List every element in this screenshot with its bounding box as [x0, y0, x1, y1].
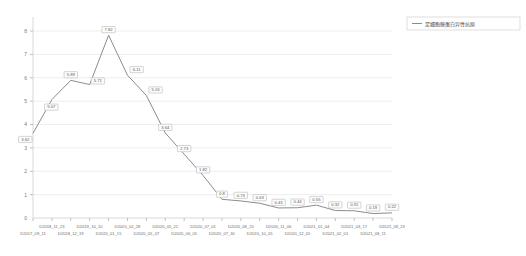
data-label-D2020_12_05: 0.44: [291, 199, 304, 205]
data-label-text: 0.8: [219, 191, 225, 196]
x-tick-label-D2021_01_04: D2021_01_04: [304, 224, 330, 229]
x-tick-label-D2020_01_15: D2020_01_15: [96, 231, 122, 236]
y-tick-label-2: 2: [24, 168, 27, 174]
x-tick-label-D2021_02_01: D2021_02_01: [322, 231, 348, 236]
data-label-text: 0.63: [256, 195, 265, 200]
data-label-D2021_08_11: 0.19: [366, 205, 379, 211]
data-label-D2021_01_04: 0.55: [310, 196, 323, 202]
x-tick-label-D2020_07_30: D2020_07_30: [209, 231, 235, 236]
y-tick-label-3: 3: [24, 145, 27, 151]
data-label-D2018_12_19: 5.89: [64, 72, 77, 78]
data-label-D2020_10_05: 0.63: [253, 195, 266, 201]
data-label-text: 1.82: [199, 167, 208, 172]
data-label-text: 5.24: [151, 87, 160, 92]
y-tick-label-0: 0: [24, 215, 27, 221]
line-chart: 123456780 D2017_09_11D2018_11_23D2018_12…: [0, 0, 526, 256]
x-tick-label-D2019_10_10: D2019_10_10: [77, 224, 103, 229]
data-label-D2020_05_21: 3.64: [159, 124, 172, 130]
data-label-text: 5.89: [67, 72, 76, 77]
x-tick-label-D2020_12_05: D2020_12_05: [285, 231, 311, 236]
data-label-D2019_10_10: 5.71: [91, 78, 104, 84]
data-label-text: 0.19: [369, 205, 378, 210]
x-tick-label-D2017_09_11: D2017_09_11: [20, 231, 46, 236]
data-label-D2020_02_28: 6.11: [130, 67, 143, 73]
data-label-D2020_07_01: 1.82: [196, 167, 209, 173]
data-label-D2020_08_25: 0.73: [234, 192, 247, 198]
data-label-D2021_09_23: 0.22: [385, 204, 398, 210]
data-label-D2020_11_06: 0.43: [272, 199, 285, 205]
x-tick-label-D2018_12_19: D2018_12_19: [58, 231, 84, 236]
data-label-D2021_03_17: 0.31: [348, 202, 361, 208]
data-label-text: 0.43: [275, 200, 284, 205]
x-tick-label-D2020_10_05: D2020_10_05: [247, 231, 273, 236]
x-tick-label-D2020_05_21: D2020_05_21: [152, 224, 178, 229]
data-label-D2020_06_05: 2.73: [177, 145, 190, 151]
data-label-text: 2.73: [180, 146, 189, 151]
y-tick-label-4: 4: [24, 121, 27, 127]
data-label-text: 0.55: [312, 197, 321, 202]
grid-lines: [33, 31, 392, 195]
y-axis-tick-labels: 123456780: [24, 28, 33, 221]
data-label-text: 7.82: [105, 27, 114, 32]
x-tick-label-D2020_07_01: D2020_07_01: [190, 224, 216, 229]
data-label-D2020_05_07: 5.24: [149, 87, 162, 93]
data-label-text: 0.31: [350, 202, 359, 207]
x-tick-label-D2021_08_11: D2021_08_11: [360, 231, 386, 236]
data-label-D2020_01_15: 7.82: [102, 27, 115, 33]
data-label-text: 0.73: [237, 193, 246, 198]
x-tick-label-D2020_08_25: D2020_08_25: [228, 224, 254, 229]
y-tick-label-1: 1: [24, 192, 27, 198]
legend[interactable]: 足细胞膜蛋白异性抗原: [407, 17, 520, 30]
data-label-text: 5.71: [94, 78, 103, 83]
x-axis-tick-labels: D2017_09_11D2018_11_23D2018_12_19D2019_1…: [20, 218, 405, 236]
x-tick-label-D2018_11_23: D2018_11_23: [39, 224, 65, 229]
data-label-D2020_07_30: 0.8: [216, 191, 227, 197]
data-label-text: 3.62: [21, 137, 30, 142]
legend-label[interactable]: 足细胞膜蛋白异性抗原: [425, 21, 475, 28]
data-label-text: 3.64: [161, 125, 170, 130]
data-label-text: 0.44: [293, 199, 302, 204]
x-tick-label-D2020_11_06: D2020_11_06: [266, 224, 292, 229]
x-tick-label-D2020_05_07: D2020_05_07: [134, 231, 160, 236]
y-tick-label-5: 5: [24, 98, 27, 104]
data-label-D2018_11_23: 5.07: [45, 104, 58, 110]
x-tick-label-D2020_02_28: D2020_02_28: [115, 224, 141, 229]
data-label-text: 5.07: [47, 104, 56, 109]
data-label-text: 0.32: [331, 202, 340, 207]
y-tick-label-7: 7: [24, 51, 27, 57]
data-label-D2021_02_01: 0.32: [329, 202, 342, 208]
data-label-D2017_09_11: 3.62: [19, 136, 32, 142]
y-tick-label-6: 6: [24, 75, 27, 81]
data-label-text: 6.11: [133, 67, 142, 72]
x-tick-label-D2021_09_23: D2021_09_23: [379, 224, 405, 229]
x-tick-label-D2020_06_05: D2020_06_05: [171, 231, 197, 236]
y-tick-label-8: 8: [24, 28, 27, 34]
x-tick-label-D2021_03_17: D2021_03_17: [341, 224, 367, 229]
data-label-text: 0.22: [388, 204, 397, 209]
chart-container: 123456780 D2017_09_11D2018_11_23D2018_12…: [0, 0, 526, 256]
